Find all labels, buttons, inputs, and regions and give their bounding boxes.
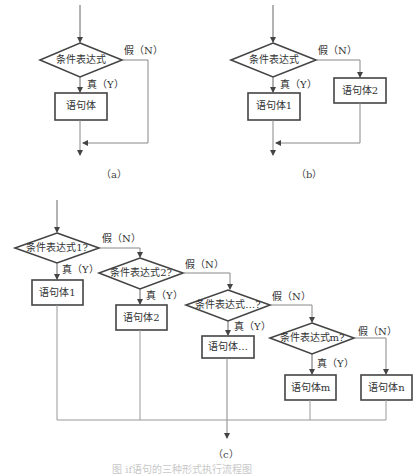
false-label-c2: 假（N） <box>185 259 224 271</box>
condition-text-c1: 条件表达式1? <box>15 242 99 254</box>
statement-text-b1: 语句体1 <box>248 100 300 112</box>
statement-text-cn: 语句体n <box>361 382 412 394</box>
statement-text-a: 语句体 <box>55 100 107 112</box>
statement-text-c1: 语句体1 <box>32 287 83 299</box>
false-branch-line-2 <box>183 273 230 289</box>
true-label-c1: 真（Y） <box>62 264 99 276</box>
false-label-a: 假（N） <box>124 45 163 57</box>
caption-a: （a） <box>101 166 127 181</box>
false-branch-line <box>316 60 360 77</box>
true-label-cm: 真（Y） <box>317 358 354 370</box>
condition-text-c3: 条件表达式…? <box>186 299 270 311</box>
true-label-c3: 真（Y） <box>234 321 271 333</box>
caption-c: （c） <box>213 446 239 461</box>
statement-text-b2: 语句体2 <box>334 85 386 97</box>
false-label-c3: 假（N） <box>272 291 311 303</box>
true-label-c2: 真（Y） <box>146 290 183 302</box>
diagram-c <box>15 200 412 438</box>
false-branch-line-3 <box>270 305 312 322</box>
false-label-b: 假（N） <box>318 45 357 57</box>
condition-text-a: 条件表达式 <box>40 54 122 66</box>
statement-text-c3: 语句体… <box>202 341 254 353</box>
condition-text-cm: 条件表达式m? <box>270 332 354 344</box>
condition-text-b: 条件表达式 <box>231 54 316 66</box>
false-branch-line-1 <box>99 248 140 257</box>
false-label-cm: 假（N） <box>358 326 397 338</box>
true-label-b: 真（Y） <box>280 79 317 91</box>
figure-caption: 图 if语句的三种形式执行流程图 <box>112 461 252 476</box>
false-label-c1: 假（N） <box>102 233 141 245</box>
false-branch-line-m <box>354 338 386 374</box>
statement-text-cm: 语句体m <box>285 382 336 394</box>
true-label-a: 真（Y） <box>87 79 124 91</box>
caption-b: （b） <box>296 166 322 181</box>
statement-text-c2: 语句体2 <box>116 312 167 324</box>
condition-text-c2: 条件表达式2? <box>99 267 183 279</box>
